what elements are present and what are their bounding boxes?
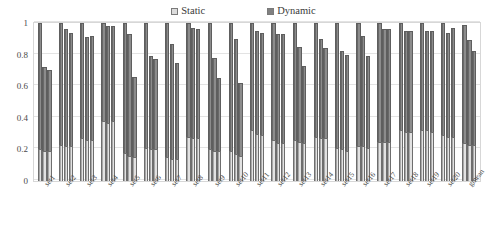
legend-entry-static: Static: [171, 6, 205, 16]
bar-group: [204, 23, 225, 181]
stacked-bar: [302, 66, 306, 181]
bar-segment-static: [165, 157, 169, 181]
stacked-bar: [186, 23, 190, 181]
bar-segment-static: [255, 134, 259, 181]
stacked-bar: [408, 31, 412, 181]
bar-segment-static: [59, 145, 63, 181]
bar-segment-dynamic: [217, 78, 221, 151]
bar-group: [183, 23, 204, 181]
y-tick-label: 1: [24, 19, 29, 28]
square-filled-icon: [267, 8, 274, 15]
stacked-bar: [250, 23, 254, 181]
bar-segment-dynamic: [127, 34, 131, 156]
bar-segment-dynamic: [293, 23, 297, 140]
bar-segment-dynamic: [69, 33, 73, 147]
y-tick-label: 0.8: [17, 50, 28, 59]
bar-segment-dynamic: [356, 23, 360, 146]
bar-segment-static: [101, 121, 105, 181]
stacked-bar: [293, 23, 297, 181]
stacked-bar: [132, 77, 136, 181]
bar-segment-static: [80, 138, 84, 181]
bar-segment-dynamic: [420, 23, 424, 130]
bar-group: [353, 23, 374, 181]
bar-segment-dynamic: [425, 31, 429, 131]
bar-group: [161, 23, 182, 181]
stacked-bar: [255, 31, 259, 181]
bar-segment-static: [106, 123, 110, 181]
y-tick-label: 0.4: [17, 113, 28, 122]
bar-segment-dynamic: [234, 39, 238, 154]
bar-segment-dynamic: [165, 23, 169, 157]
chart-legend: Static Dynamic: [0, 2, 487, 20]
bar-segment-dynamic: [111, 26, 115, 121]
bar-segment-dynamic: [382, 29, 386, 141]
bar-segment-dynamic: [149, 56, 153, 149]
stacked-bar: [281, 34, 285, 181]
bar-segment-dynamic: [80, 23, 84, 138]
bar-group: [268, 23, 289, 181]
bar-segment-dynamic: [85, 37, 89, 140]
stacked-bar: [234, 39, 238, 181]
bar-segment-static: [356, 146, 360, 181]
stacked-bar: [208, 23, 212, 181]
stacked-bar: [446, 32, 450, 181]
stacked-bar: [276, 34, 280, 181]
bar-segment-dynamic: [123, 23, 127, 153]
bar-group: [331, 23, 352, 181]
stacked-bar: [175, 63, 179, 182]
y-tick-label: 0.2: [17, 145, 28, 154]
bar-group: [438, 23, 459, 181]
bar-segment-dynamic: [101, 23, 105, 121]
stacked-bar: [404, 31, 408, 181]
bar-segment-static: [38, 149, 42, 181]
bar-segment-static: [420, 130, 424, 181]
stacked-bar: [319, 39, 323, 181]
bar-group: [459, 23, 480, 181]
bar-segment-dynamic: [64, 29, 68, 146]
stacked-bar: [387, 29, 391, 181]
bar-segment-dynamic: [250, 23, 254, 130]
stacked-bar: [144, 23, 148, 181]
legend-label-dynamic: Dynamic: [277, 6, 316, 16]
bar-segment-dynamic: [106, 26, 110, 122]
stacked-bar: [170, 44, 174, 181]
stacked-bar: [165, 23, 169, 181]
stacked-bar: [441, 23, 445, 181]
bar-segment-dynamic: [191, 28, 195, 139]
bar-segment-dynamic: [42, 67, 46, 151]
bar-segment-dynamic: [281, 34, 285, 143]
bar-segment-dynamic: [276, 34, 280, 143]
bar-group: [246, 23, 267, 181]
y-axis: 00.20.40.60.81: [0, 22, 31, 182]
stacked-bar: [90, 36, 94, 181]
bar-segment-static: [229, 151, 233, 181]
bar-segment-dynamic: [302, 66, 306, 143]
bar-segment-static: [144, 148, 148, 181]
gridline: [34, 21, 480, 22]
bar-segment-dynamic: [38, 23, 42, 149]
bar-segment-dynamic: [335, 23, 339, 148]
bar-group: [98, 23, 119, 181]
x-axis: set1set2set3set4set5set6set7set8set9set1…: [34, 183, 480, 226]
bar-segment-dynamic: [271, 23, 275, 140]
y-tick-label: 0: [24, 177, 29, 186]
stacked-bar: [80, 23, 84, 181]
stacked-bar: [451, 28, 455, 181]
bar-segment-static: [462, 143, 466, 181]
stacked-bar: [472, 51, 476, 181]
bar-segment-dynamic: [255, 31, 259, 134]
y-tick-label: 0.6: [17, 82, 28, 91]
bar-segment-static: [425, 130, 429, 181]
stacked-bar: [356, 23, 360, 181]
bar-segment-dynamic: [297, 47, 301, 142]
bar-segment-dynamic: [314, 23, 318, 137]
stacked-bar: [340, 51, 344, 181]
bar-segment-static: [271, 140, 275, 181]
bar-segment-dynamic: [430, 31, 434, 132]
bar-group: [55, 23, 76, 181]
stacked-bar: [335, 23, 339, 181]
bar-segment-static: [250, 130, 254, 181]
bar-segment-dynamic: [132, 77, 136, 158]
stacked-bar: [123, 23, 127, 181]
bar-segment-dynamic: [451, 28, 455, 137]
